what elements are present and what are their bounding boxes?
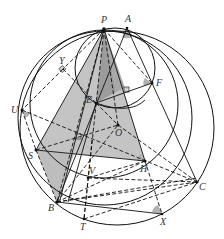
- dash-hx: [145, 161, 162, 214]
- point-v: [87, 177, 90, 180]
- geometry-diagram: P A Y F U E O S H V C B T X: [0, 0, 224, 239]
- label-t: T: [80, 221, 87, 232]
- label-e: E: [85, 94, 92, 105]
- point-f: [151, 82, 154, 85]
- label-y: Y: [59, 55, 66, 66]
- point-x: [161, 213, 164, 216]
- point-p: [102, 27, 106, 31]
- point-s: [35, 149, 38, 152]
- label-p: P: [100, 14, 107, 25]
- dash-bc: [57, 182, 197, 202]
- angle-mark-u: [22, 110, 30, 118]
- label-x: X: [159, 216, 167, 227]
- shaded-triangle-left: [36, 150, 74, 202]
- label-h: H: [139, 163, 148, 174]
- line-bx: [57, 202, 162, 214]
- right-angle-mark-y: [59, 65, 66, 72]
- label-c: C: [199, 181, 206, 192]
- label-u: U: [11, 104, 19, 115]
- point-t: [83, 218, 86, 221]
- dash-vh: [88, 161, 145, 178]
- point-u: [21, 109, 24, 112]
- point-b: [55, 200, 59, 204]
- label-b: B: [48, 202, 54, 213]
- label-a: A: [124, 13, 132, 24]
- point-a: [126, 27, 129, 30]
- label-f: F: [155, 77, 163, 88]
- label-o: O: [115, 127, 122, 138]
- dash-us: [22, 110, 36, 150]
- dash-tc: [84, 182, 197, 219]
- label-s: S: [28, 150, 33, 161]
- label-v: V: [89, 165, 97, 176]
- point-e: [95, 102, 98, 105]
